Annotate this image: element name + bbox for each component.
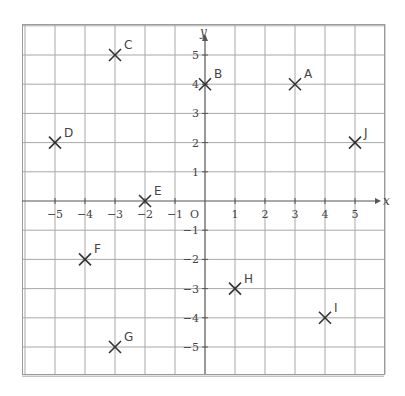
x-tick-label: −3 [107, 208, 123, 221]
y-tick-label: 5 [192, 49, 199, 62]
point-label: D [64, 126, 73, 140]
y-tick-label: −1 [183, 224, 199, 237]
y-tick-label: 4 [192, 78, 199, 91]
point-d: D [49, 126, 73, 149]
point-h: H [229, 272, 253, 295]
y-axis-label: y [199, 25, 207, 39]
x-tick-label: 5 [352, 208, 359, 221]
point-b: B [199, 67, 222, 90]
point-label: E [154, 184, 162, 198]
x-axis-label: x [383, 194, 390, 208]
point-e: E [139, 184, 162, 207]
x-tick-label: 1 [232, 208, 239, 221]
y-tick-label: 1 [192, 166, 199, 179]
x-tick-label: −1 [167, 208, 183, 221]
x-tick-label: 3 [292, 208, 299, 221]
point-label: I [334, 301, 338, 315]
y-tick-label: −2 [183, 253, 199, 266]
plotted-points: ABCDEFGHIJ [49, 38, 368, 353]
point-j: J [349, 126, 368, 149]
point-label: B [214, 67, 222, 81]
point-c: C [109, 38, 132, 61]
y-tick-label: 3 [192, 107, 199, 120]
x-axis-arrow-icon [375, 198, 381, 204]
point-f: F [79, 242, 101, 265]
x-tick-label: −4 [77, 208, 93, 221]
point-label: F [94, 242, 101, 256]
point-label: C [124, 38, 132, 52]
x-tick-label: −5 [47, 208, 63, 221]
point-label: J [363, 126, 368, 140]
y-tick-label: −3 [183, 283, 199, 296]
point-label: H [244, 272, 253, 286]
x-tick-label: −2 [137, 208, 153, 221]
y-tick-label: −4 [183, 312, 199, 325]
x-tick-label: 4 [322, 208, 329, 221]
y-tick-label: −5 [183, 341, 199, 354]
x-tick-label: 2 [262, 208, 269, 221]
point-label: G [124, 330, 133, 344]
y-tick-label: 2 [192, 137, 199, 150]
axes: x y O [22, 25, 390, 374]
origin-label: O [190, 208, 199, 221]
point-i: I [319, 301, 338, 324]
coordinate-grid-chart: x y O −5−4−3−2−11234554321−1−2−3−4−5 ABC… [0, 0, 405, 396]
point-a: A [289, 67, 313, 90]
point-g: G [109, 330, 133, 353]
point-label: A [304, 67, 313, 81]
